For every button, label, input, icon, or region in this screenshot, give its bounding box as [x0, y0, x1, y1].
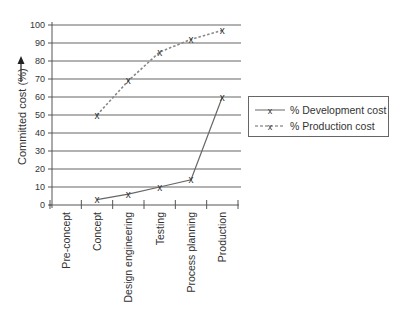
y-tick-label: 90 — [35, 38, 45, 48]
x-marker-icon: x — [95, 110, 100, 121]
y-axis-ticks: 0102030405060708090100 — [30, 20, 52, 210]
x-category-label: Concept — [91, 212, 103, 251]
legend-item-development: x % Development cost — [255, 102, 388, 118]
y-axis-title: Committed cost (%) — [16, 68, 28, 165]
x-marker-icon: x — [126, 75, 131, 86]
x-category-label: Testing — [154, 212, 166, 245]
x-category-label: Process planning — [185, 212, 197, 293]
x-category-label: Production — [216, 212, 228, 262]
x-axis-category-labels: Pre-conceptConceptDesign engineeringTest… — [60, 212, 229, 303]
svg-text:x: x — [268, 122, 273, 132]
x-marker-icon: x — [189, 174, 194, 185]
y-tick-label: 50 — [35, 110, 45, 120]
gridlines — [52, 25, 241, 187]
x-marker-icon: x — [220, 92, 225, 103]
y-tick-label: 60 — [35, 92, 45, 102]
y-tick-label: 40 — [35, 128, 45, 138]
x-category-label: Design engineering — [122, 212, 134, 303]
legend-label-production: % Production cost — [290, 120, 375, 132]
y-tick-label: 0 — [40, 200, 45, 210]
svg-text:x: x — [268, 106, 273, 116]
x-marker-icon: x — [95, 194, 100, 205]
y-tick-label: 20 — [35, 164, 45, 174]
chart-canvas: 0102030405060708090100 xxxxxxxxxx Pre-co… — [0, 0, 403, 319]
legend-label-development: % Development cost — [290, 104, 386, 116]
x-marker-icon: x — [126, 189, 131, 200]
x-marker-icon: x — [189, 34, 194, 45]
x-marker-icon: x — [220, 25, 225, 36]
legend-item-production: x % Production cost — [255, 118, 388, 134]
y-tick-label: 70 — [35, 74, 45, 84]
y-tick-label: 30 — [35, 146, 45, 156]
legend: x % Development cost x % Production cost — [248, 96, 389, 137]
dashed-line-x-marker-icon: x — [255, 121, 285, 131]
solid-line-x-marker-icon: x — [255, 105, 285, 115]
x-marker-icon: x — [157, 47, 162, 58]
x-marker-icon: x — [157, 182, 162, 193]
y-tick-label: 80 — [35, 56, 45, 66]
x-category-label: Pre-concept — [60, 212, 72, 269]
y-tick-label: 10 — [35, 182, 45, 192]
y-tick-label: 100 — [30, 20, 45, 30]
